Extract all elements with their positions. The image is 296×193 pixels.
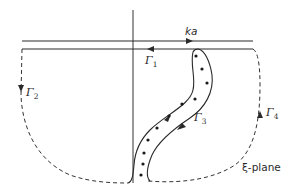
gamma4-label: Γ4 xyxy=(265,106,279,121)
contour-diagram: ka Γ1 Γ2 Γ3 Γ4 ξ-plane xyxy=(0,0,296,193)
gamma3-label: Γ3 xyxy=(193,111,207,126)
ka-arrow-icon xyxy=(186,38,193,44)
gamma1-label: Γ1 xyxy=(144,54,157,69)
gamma4-arrow-icon xyxy=(257,111,263,118)
ka-label: ka xyxy=(185,25,198,37)
band-left-edge xyxy=(128,49,198,183)
gamma1-arrow-icon xyxy=(147,46,154,52)
left-arc-gamma2 xyxy=(21,49,128,183)
plane-label: ξ-plane xyxy=(242,161,281,173)
gamma2-arrow-icon xyxy=(18,85,24,92)
gamma2-label: Γ2 xyxy=(25,86,39,101)
